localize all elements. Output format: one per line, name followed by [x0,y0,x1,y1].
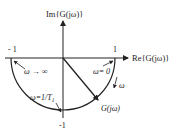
omega-direction-arrow [114,77,117,88]
omega-zero-label: ω= 0 [93,67,110,76]
omega-corner-pointer [56,103,61,112]
omega-zero-pointer [103,61,113,66]
g-vector-arrow [63,58,98,100]
omega-infinity-label: ω → ∞ [24,67,48,76]
real-axis-label: Re{G(jω)} [132,53,169,63]
nyquist-diagram: Im{G(jω)} Re{G(jω)} - 1 1 -1 ω → ∞ ω= 0 … [0,0,179,137]
tick-bottom: -1 [59,121,66,130]
omega-corner-label: ω=1/T1 [30,93,55,103]
g-vector-label: G(jω) [101,104,120,113]
tick-left: - 1 [8,45,17,54]
omega-direction-label: ω [119,81,125,90]
tick-right: 1 [113,45,117,54]
imag-axis-label: Im{G(jω)} [46,9,83,19]
